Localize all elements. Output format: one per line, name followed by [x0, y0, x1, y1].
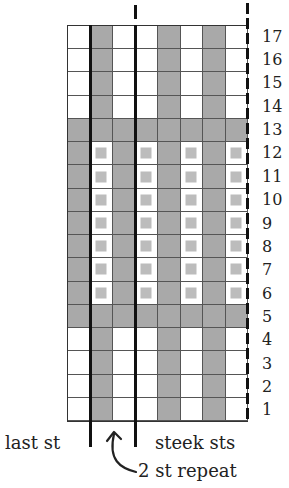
chart-cell [113, 142, 136, 165]
chart-cell [136, 351, 159, 374]
chart-cell [226, 96, 249, 119]
chart-cell [91, 235, 114, 258]
chart-cell [68, 235, 91, 258]
chart-cell [91, 49, 114, 72]
chart-cell [226, 305, 249, 328]
chart-cell [113, 165, 136, 188]
chart-cell [91, 375, 114, 398]
chart-cell [158, 235, 181, 258]
chart-cell [136, 119, 159, 142]
chart-cell [203, 96, 226, 119]
chart-cell [158, 165, 181, 188]
chart-cell [91, 398, 114, 421]
chart-cell [226, 235, 249, 258]
repeat-boundary-line [134, 25, 137, 447]
chart-cell [68, 328, 91, 351]
chart-cell [158, 96, 181, 119]
chart-cell [113, 375, 136, 398]
chart-cell [226, 72, 249, 95]
steek-sts-label: steek sts [155, 434, 235, 452]
chart-cell [181, 258, 204, 281]
chart-cell [226, 398, 249, 421]
row-number: 3 [262, 356, 272, 372]
chart-cell [91, 305, 114, 328]
chart-cell [68, 398, 91, 421]
chart-cell [136, 328, 159, 351]
chart-cell [226, 328, 249, 351]
chart-cell [158, 328, 181, 351]
chart-cell [113, 235, 136, 258]
row-number: 16 [262, 52, 282, 68]
repeat-top-tick [134, 5, 137, 19]
chart-cell [226, 119, 249, 142]
chart-cell [203, 72, 226, 95]
chart-cell [226, 189, 249, 212]
chart-cell [68, 375, 91, 398]
chart-cell [68, 189, 91, 212]
chart-cell [203, 375, 226, 398]
chart-cell [68, 351, 91, 374]
row-number: 14 [262, 99, 282, 115]
chart-cell [91, 328, 114, 351]
chart-cell [203, 305, 226, 328]
chart-cell [181, 235, 204, 258]
chart-cell [181, 49, 204, 72]
chart-cell [203, 258, 226, 281]
chart-cell [136, 49, 159, 72]
chart-cell [181, 165, 204, 188]
chart-cell [68, 72, 91, 95]
chart-cell [181, 142, 204, 165]
chart-cell [203, 351, 226, 374]
chart-cell [136, 96, 159, 119]
chart-cell [181, 282, 204, 305]
chart-cell [68, 49, 91, 72]
chart-cell [113, 26, 136, 49]
chart-cell [136, 258, 159, 281]
knitting-chart [67, 25, 248, 422]
chart-cell [91, 72, 114, 95]
chart-cell [203, 398, 226, 421]
chart-cell [203, 142, 226, 165]
chart-cell [113, 328, 136, 351]
chart-cell [181, 305, 204, 328]
chart-cell [113, 398, 136, 421]
chart-cell [113, 119, 136, 142]
chart-cell [203, 26, 226, 49]
chart-cell [158, 375, 181, 398]
chart-cell [91, 189, 114, 212]
last-stitch-line [89, 25, 92, 447]
chart-cell [203, 328, 226, 351]
chart-cell [226, 49, 249, 72]
chart-cell [158, 398, 181, 421]
chart-cell [226, 142, 249, 165]
row-number: 10 [262, 192, 282, 208]
chart-cell [136, 375, 159, 398]
chart-cell [203, 235, 226, 258]
chart-cell [113, 96, 136, 119]
chart-cell [136, 282, 159, 305]
chart-cell [136, 165, 159, 188]
chart-cell [203, 282, 226, 305]
chart-cell [91, 212, 114, 235]
chart-cell [158, 26, 181, 49]
row-number: 1 [262, 402, 272, 418]
chart-cell [68, 165, 91, 188]
chart-grid [67, 25, 248, 422]
chart-cell [203, 165, 226, 188]
chart-cell [158, 282, 181, 305]
chart-cell [158, 189, 181, 212]
row-number: 5 [262, 309, 272, 325]
row-number: 2 [262, 379, 272, 395]
chart-cell [68, 26, 91, 49]
chart-cell [226, 212, 249, 235]
chart-cell [158, 119, 181, 142]
chart-cell [136, 398, 159, 421]
chart-cell [113, 212, 136, 235]
chart-cell [91, 351, 114, 374]
chart-cell [181, 212, 204, 235]
chart-cell [91, 165, 114, 188]
row-number: 8 [262, 239, 272, 255]
chart-cell [158, 49, 181, 72]
chart-cell [181, 72, 204, 95]
chart-cell [136, 189, 159, 212]
